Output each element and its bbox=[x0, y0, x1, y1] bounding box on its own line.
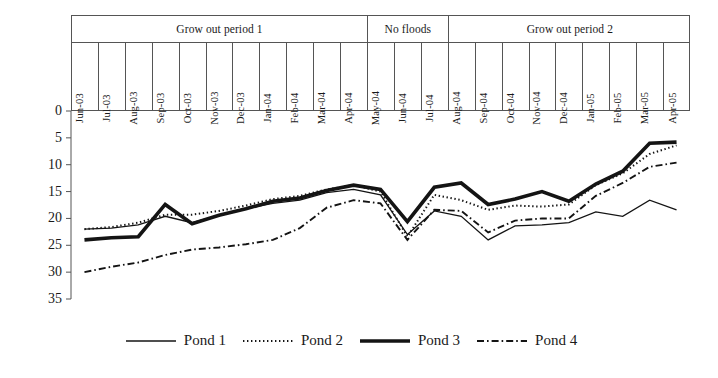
legend-label: Pond 2 bbox=[301, 332, 343, 349]
legend-item: Pond 1 bbox=[125, 332, 242, 349]
plot-area bbox=[0, 0, 718, 378]
chart-legend: Pond 1Pond 2Pond 3Pond 4 bbox=[0, 332, 718, 349]
legend-item: Pond 4 bbox=[476, 332, 593, 349]
legend-swatch-dotted bbox=[242, 334, 294, 348]
legend-item: Pond 2 bbox=[242, 332, 359, 349]
legend-swatch-solid-thin bbox=[125, 334, 177, 348]
series-line-pond-4 bbox=[84, 163, 676, 273]
legend-label: Pond 3 bbox=[418, 332, 460, 349]
legend-item: Pond 3 bbox=[359, 332, 476, 349]
series-line-pond-3 bbox=[84, 142, 676, 240]
chart-figure: 05101520253035 Grow out period 1No flood… bbox=[0, 0, 718, 378]
legend-label: Pond 1 bbox=[184, 332, 226, 349]
legend-swatch-dash-dot bbox=[476, 334, 528, 348]
series-line-pond-1 bbox=[84, 189, 676, 239]
legend-swatch-solid-thick bbox=[359, 334, 411, 348]
legend-label: Pond 4 bbox=[535, 332, 577, 349]
